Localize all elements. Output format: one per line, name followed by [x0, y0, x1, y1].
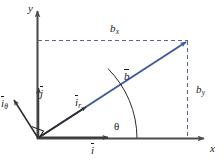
vector-i-label: i [91, 145, 94, 156]
vector-ir-subscript: r [78, 101, 81, 110]
vector-ir-arrow [38, 107, 86, 138]
vector-itheta-base: i [1, 98, 4, 109]
vector-itheta-arrow [14, 100, 38, 138]
vector-b-label: b [124, 71, 130, 82]
vector-itheta-subscript: θ [4, 102, 8, 111]
theta-angle-arc [108, 69, 137, 138]
theta-angle-label: θ [114, 121, 119, 132]
bx-component-label: bx [110, 23, 119, 36]
vector-ir-label: ir [75, 97, 81, 110]
vector-itheta-label: iθ [1, 98, 8, 111]
by-base: b [196, 83, 202, 95]
by-component-label: by [196, 84, 205, 97]
vector-ir-base: i [75, 97, 78, 108]
vector-i-text: i [91, 145, 94, 156]
bx-base: b [110, 22, 116, 34]
x-axis-label: x [210, 143, 215, 154]
bx-subscript: x [116, 27, 119, 36]
vector-j-label: j [40, 88, 43, 99]
y-axis-label: y [28, 3, 33, 14]
vector-j-text: j [40, 88, 43, 99]
vector-diagram-figure: y x bx by b ir iθ j i θ [0, 0, 224, 162]
vector-b-text: b [124, 71, 130, 82]
by-subscript: y [202, 88, 205, 97]
